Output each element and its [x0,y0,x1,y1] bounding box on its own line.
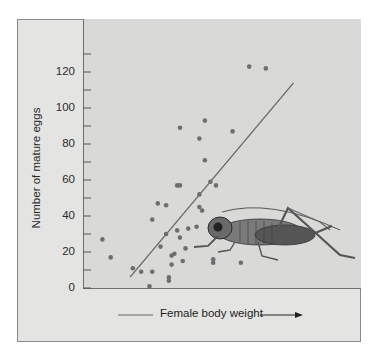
data-point [194,225,199,230]
data-point [150,217,155,222]
data-point [155,201,160,206]
data-point [247,64,252,69]
data-points [100,64,268,288]
data-point [108,255,113,260]
data-point [164,203,169,208]
data-point [230,129,235,134]
data-point [175,228,180,233]
data-point [183,246,188,251]
data-point [197,192,202,197]
data-point [172,252,177,257]
data-point [139,270,144,275]
data-point [186,226,191,231]
data-point [131,266,136,271]
data-point [150,270,155,275]
data-point [180,259,185,264]
arrow-right-icon [295,312,303,318]
data-point [100,237,105,242]
y-axis-ticks [83,54,91,288]
data-point [264,66,269,71]
x-axis-label: Female body weight [160,307,263,319]
data-point [203,158,208,163]
data-point [211,261,216,266]
data-point [203,118,208,123]
data-point [178,235,183,240]
data-point [147,284,152,289]
cricket-illustration-icon [194,208,355,260]
data-point [158,244,163,249]
data-point [208,180,213,185]
data-point [178,126,183,131]
data-point [169,262,174,267]
data-point [239,261,244,266]
data-point [167,275,172,280]
data-point [197,136,202,141]
data-point [164,232,169,237]
data-point [200,208,205,213]
data-point [197,205,202,210]
data-point [178,183,183,188]
data-point [214,183,219,188]
